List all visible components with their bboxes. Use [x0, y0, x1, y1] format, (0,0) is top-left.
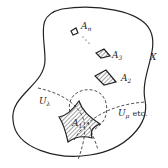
label-etc: etc. — [133, 109, 148, 118]
label-u-lambda: Uλ — [39, 97, 50, 107]
label-u-mu: Uμetc. — [118, 109, 147, 119]
label-a1: A1 — [72, 119, 82, 129]
label-space-x: X — [150, 53, 156, 62]
set-a2-shape — [95, 70, 116, 85]
label-a-n: An — [81, 22, 91, 32]
ellipsis-dots — [82, 36, 89, 43]
set-a-n-shape — [71, 28, 78, 35]
set-a3-shape — [96, 49, 110, 58]
label-a3: A3 — [112, 51, 122, 61]
label-a2: A2 — [121, 74, 131, 84]
